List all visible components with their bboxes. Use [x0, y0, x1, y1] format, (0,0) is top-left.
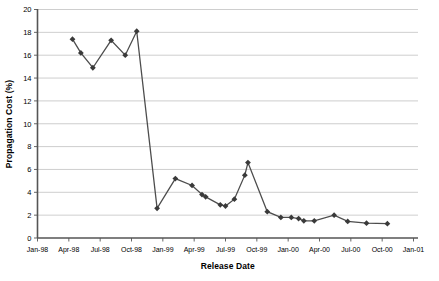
- y-axis-title: Propagation Cost (%): [4, 80, 14, 168]
- y-tick-label: 14: [23, 74, 31, 83]
- x-tick-label: Jan-00: [277, 246, 299, 253]
- x-tick-label: Apr-99: [184, 246, 205, 254]
- y-tick-label: 0: [27, 234, 31, 243]
- x-tick-label: Jul-00: [341, 246, 360, 253]
- y-tick-label: 8: [27, 142, 31, 151]
- x-tick-label: Jan-01: [403, 246, 425, 253]
- x-tick-label: Oct-98: [121, 246, 142, 253]
- propagation-cost-line-chart: 02468101214161820 Jan-98Apr-98Jul-98Oct-…: [0, 0, 439, 281]
- x-tick-label: Oct-99: [246, 246, 267, 253]
- x-tick-label: Apr-00: [309, 246, 330, 254]
- x-tick-label: Jan-99: [152, 246, 174, 253]
- y-tick-label: 4: [27, 188, 31, 197]
- chart-background: [0, 0, 439, 281]
- chart-container: 02468101214161820 Jan-98Apr-98Jul-98Oct-…: [0, 0, 439, 281]
- y-tick-label: 20: [23, 5, 31, 14]
- x-tick-label: Jul-98: [91, 246, 110, 253]
- y-tick-label: 12: [23, 97, 31, 106]
- y-tick-label: 2: [27, 211, 31, 220]
- x-tick-label: Oct-00: [372, 246, 393, 253]
- y-tick-label: 18: [23, 28, 31, 37]
- x-tick-label: Jan-98: [27, 246, 49, 253]
- x-axis-title: Release Date: [201, 261, 255, 271]
- y-tick-label: 16: [23, 51, 31, 60]
- y-tick-label: 6: [27, 165, 31, 174]
- x-tick-label: Apr-98: [58, 246, 79, 254]
- y-tick-label: 10: [23, 120, 31, 129]
- x-tick-label: Jul-99: [216, 246, 235, 253]
